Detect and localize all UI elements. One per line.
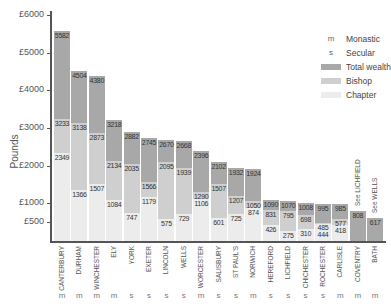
total-value-label: 4504 bbox=[70, 72, 88, 79]
chapter-value-label: 2349 bbox=[53, 154, 71, 161]
x-axis bbox=[50, 241, 386, 243]
bishop-value-label: 1566 bbox=[140, 183, 158, 190]
y-tick-label: £4000 bbox=[4, 84, 44, 94]
secular-marker: s bbox=[263, 291, 279, 300]
legend-label: Chapter bbox=[346, 90, 376, 100]
monastic-marker: m bbox=[350, 291, 366, 300]
legend-label: Secular bbox=[346, 48, 375, 58]
bishop-value-label: 3138 bbox=[70, 124, 88, 131]
monastic-symbol: m bbox=[320, 34, 342, 43]
y-tick-label: £500 bbox=[4, 216, 44, 226]
chapter-value-label: 729 bbox=[175, 215, 193, 222]
bishop-value-label: 1290 bbox=[192, 193, 210, 200]
secular-marker: s bbox=[298, 291, 314, 300]
chapter-value-label: 1084 bbox=[105, 201, 123, 208]
total-value-label: 4380 bbox=[88, 77, 106, 84]
y-tick-label: £1000 bbox=[4, 197, 44, 207]
bishop-value-label: 1939 bbox=[175, 169, 193, 176]
chapter-value-label: 426 bbox=[262, 226, 280, 233]
y-tick-label: £2000 bbox=[4, 160, 44, 170]
total-value-label: 1090 bbox=[262, 201, 280, 208]
y-axis bbox=[50, 11, 52, 242]
secular-marker: s bbox=[124, 291, 140, 300]
bishop-value-label: 485 bbox=[314, 224, 332, 231]
monastic-marker: m bbox=[71, 291, 87, 300]
monastic-marker: m bbox=[332, 291, 348, 300]
secular-marker: s bbox=[141, 291, 157, 300]
y-tick-label: £3000 bbox=[4, 122, 44, 132]
chapter-value-label: 444 bbox=[314, 231, 332, 238]
chapter-value-label: 874 bbox=[244, 209, 262, 216]
total-value-label: 1924 bbox=[244, 170, 262, 177]
y-tick-mark bbox=[47, 203, 51, 204]
monastic-marker: m bbox=[106, 291, 122, 300]
y-tick-mark bbox=[47, 15, 51, 16]
monastic-marker: m bbox=[54, 291, 70, 300]
monastic-marker: m bbox=[245, 291, 261, 300]
bishop-value-label: 2035 bbox=[123, 165, 141, 172]
monastic-marker: m bbox=[193, 291, 209, 300]
chapter-value-label: 601 bbox=[210, 219, 228, 226]
legend-swatch bbox=[321, 92, 341, 98]
legend-item: Total wealth bbox=[320, 61, 391, 72]
total-value-label: 617 bbox=[366, 219, 384, 226]
secular-marker: s bbox=[176, 291, 192, 300]
legend-label: Total wealth bbox=[346, 62, 391, 72]
legend-item: Bishop bbox=[320, 75, 372, 86]
total-value-label: 2102 bbox=[210, 163, 228, 170]
total-value-label: 985 bbox=[331, 205, 349, 212]
total-value-label: 2668 bbox=[175, 142, 193, 149]
total-value-label: 1932 bbox=[227, 169, 245, 176]
bishop-value-label: 2134 bbox=[105, 162, 123, 169]
chapter-value-label: 310 bbox=[297, 230, 315, 237]
total-value-label: 2745 bbox=[140, 139, 158, 146]
chapter-value-label: 1179 bbox=[140, 198, 158, 205]
total-value-label: 5582 bbox=[53, 32, 71, 39]
chapter-bar bbox=[89, 184, 105, 241]
y-tick-mark bbox=[47, 90, 51, 91]
total-value-label: 808 bbox=[349, 212, 367, 219]
y-tick-mark bbox=[47, 53, 51, 54]
chapter-value-label: 575 bbox=[157, 220, 175, 227]
total-value-label: 1008 bbox=[297, 204, 315, 211]
bishop-value-label: 1207 bbox=[227, 197, 245, 204]
legend-label: Bishop bbox=[346, 76, 372, 86]
y-tick-mark bbox=[47, 128, 51, 129]
monastic-marker: m bbox=[89, 291, 105, 300]
bishop-value-label: 698 bbox=[297, 216, 315, 223]
chapter-value-label: 725 bbox=[227, 215, 245, 222]
bishop-value-label: 3233 bbox=[53, 120, 71, 127]
bishop-value-label: 1050 bbox=[244, 202, 262, 209]
chapter-bar bbox=[54, 153, 70, 241]
chapter-value-label: 1366 bbox=[70, 191, 88, 198]
monastic-marker: m bbox=[367, 291, 383, 300]
secular-symbol: s bbox=[320, 48, 342, 57]
chapter-value-label: 275 bbox=[279, 232, 297, 239]
chapter-value-label: 747 bbox=[123, 214, 141, 221]
bishop-value-label: 577 bbox=[331, 220, 349, 227]
legend-item: mMonastic bbox=[320, 33, 380, 44]
secular-marker: s bbox=[158, 291, 174, 300]
y-tick-mark bbox=[47, 166, 51, 167]
legend-item: sSecular bbox=[320, 47, 375, 58]
secular-marker: s bbox=[211, 291, 227, 300]
legend-swatch bbox=[321, 78, 341, 84]
secular-marker: s bbox=[315, 291, 331, 300]
bishop-value-label: 795 bbox=[279, 212, 297, 219]
bishop-value-label: 2095 bbox=[157, 163, 175, 170]
legend-swatch bbox=[321, 64, 341, 70]
legend-item: Chapter bbox=[320, 89, 376, 100]
y-tick-label: £5000 bbox=[4, 47, 44, 57]
total-value-label: 2882 bbox=[123, 133, 141, 140]
secular-marker: s bbox=[280, 291, 296, 300]
y-tick-label: £6000 bbox=[4, 9, 44, 19]
chapter-value-label: 1507 bbox=[88, 185, 106, 192]
see-note: See LICHFIELD bbox=[354, 159, 361, 206]
total-value-label: 995 bbox=[314, 205, 332, 212]
chapter-value-label: 1106 bbox=[192, 200, 210, 207]
chapter-value-label: 418 bbox=[331, 227, 349, 234]
secular-marker: s bbox=[228, 291, 244, 300]
total-value-label: 3218 bbox=[105, 121, 123, 128]
legend-label: Monastic bbox=[346, 34, 380, 44]
bishop-value-label: 2873 bbox=[88, 134, 106, 141]
